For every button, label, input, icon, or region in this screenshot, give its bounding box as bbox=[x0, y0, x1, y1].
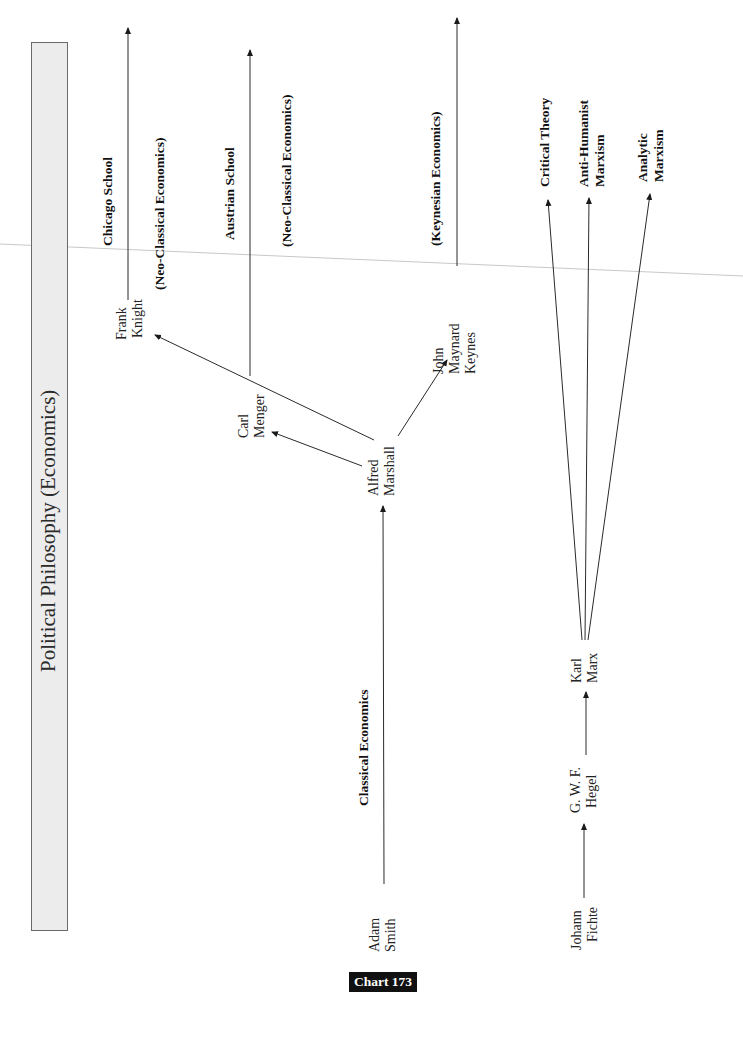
node-carl-menger: Carl Menger bbox=[236, 394, 268, 438]
scan-line bbox=[0, 244, 743, 276]
arrow-marx-analytic bbox=[588, 194, 650, 640]
label-austrian-school: Austrian School bbox=[222, 147, 238, 240]
arrow-marshall-menger bbox=[272, 432, 362, 466]
label-chicago-school: Chicago School bbox=[100, 157, 116, 246]
node-adam-smith: Adam Smith bbox=[367, 918, 399, 952]
node-john-maynard-keynes: John Maynard Keynes bbox=[431, 323, 479, 374]
node-gwf-hegel: G. W. F. Hegel bbox=[568, 767, 600, 813]
diagram-page: Political Philosophy (Economics) Chicago… bbox=[0, 0, 743, 1041]
label-chicago-neoclassical: (Neo-Classical Economics) bbox=[152, 137, 168, 290]
label-austrian-neoclassical: (Neo-Classical Economics) bbox=[279, 94, 295, 247]
label-critical-theory: Critical Theory bbox=[537, 98, 553, 187]
node-karl-marx: Karl Marx bbox=[569, 653, 601, 683]
arrow-marx-anti-humanist bbox=[585, 198, 589, 640]
node-frank-knight: Frank Knight bbox=[114, 299, 146, 340]
label-keynesian-economics: (Keynesian Economics) bbox=[428, 111, 444, 246]
label-classical-economics: Classical Economics bbox=[356, 689, 372, 806]
node-alfred-marshall: Alfred Marshall bbox=[366, 446, 398, 496]
arrow-marx-critical-theory bbox=[548, 200, 582, 640]
node-johann-fichte: Johann Fichte bbox=[569, 907, 601, 950]
page-title: Political Philosophy (Economics) bbox=[36, 390, 61, 672]
arrow-smith-marshall bbox=[383, 506, 384, 884]
label-anti-humanist-marxism: Anti-Humanist Marxism bbox=[576, 100, 608, 187]
label-analytic-marxism: Analytic Marxism bbox=[635, 130, 667, 182]
chart-number-label: Chart 173 bbox=[349, 972, 417, 992]
